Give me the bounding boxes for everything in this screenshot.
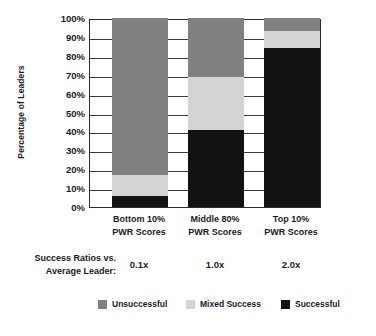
y-axis-tick-60: 60%: [39, 90, 85, 100]
legend-item-successful[interactable]: Successful: [281, 299, 340, 309]
y-axis-tick-40: 40%: [39, 127, 85, 137]
bar-2[interactable]: [188, 18, 244, 207]
stacked-bar-chart-figure: Percentage of Leaders 100%90%80%70%60%50…: [0, 0, 376, 336]
bar-segment-successful[interactable]: [112, 196, 168, 207]
bar-segment-successful[interactable]: [188, 130, 244, 207]
y-axis-tick-0: 0%: [39, 203, 85, 213]
bar-segment-unsuccessful[interactable]: [112, 18, 168, 175]
x-axis-label-3-line-1: Top 10%: [243, 213, 339, 226]
x-axis-label-3: Top 10%PWR Scores: [243, 213, 339, 238]
bar-segment-mixed-success[interactable]: [264, 31, 320, 48]
bar-segment-mixed-success[interactable]: [188, 77, 244, 130]
legend-label: Mixed Success: [200, 299, 261, 309]
y-axis-tick-100: 100%: [39, 14, 85, 24]
x-axis-label-3-line-2: PWR Scores: [243, 226, 339, 239]
bar-segment-successful[interactable]: [264, 48, 320, 207]
plot-area: [89, 19, 321, 208]
y-axis-tick-70: 70%: [39, 71, 85, 81]
y-axis-tick-90: 90%: [39, 33, 85, 43]
legend-item-mixed-success[interactable]: Mixed Success: [186, 299, 261, 309]
legend-swatch-icon: [98, 300, 107, 309]
success-ratio-value-3: 2.0x: [243, 259, 339, 270]
legend-swatch-icon: [186, 300, 195, 309]
y-axis-tick-20: 20%: [39, 165, 85, 175]
legend-swatch-icon: [281, 300, 290, 309]
bar-segment-unsuccessful[interactable]: [264, 18, 320, 31]
bar-segment-unsuccessful[interactable]: [188, 18, 244, 77]
y-axis-tick-50: 50%: [39, 109, 85, 119]
y-axis-tick-10: 10%: [39, 184, 85, 194]
legend-label: Unsuccessful: [112, 299, 167, 309]
bar-1[interactable]: [112, 18, 168, 207]
y-axis-tick-80: 80%: [39, 52, 85, 62]
legend-label: Successful: [295, 299, 340, 309]
chart-legend: UnsuccessfulMixed SuccessSuccessful: [0, 299, 376, 319]
y-axis-title: Percentage of Leaders: [16, 32, 26, 192]
legend-item-unsuccessful[interactable]: Unsuccessful: [98, 299, 167, 309]
bar-segment-mixed-success[interactable]: [112, 175, 168, 196]
bar-3[interactable]: [264, 18, 320, 207]
y-axis-tick-30: 30%: [39, 146, 85, 156]
